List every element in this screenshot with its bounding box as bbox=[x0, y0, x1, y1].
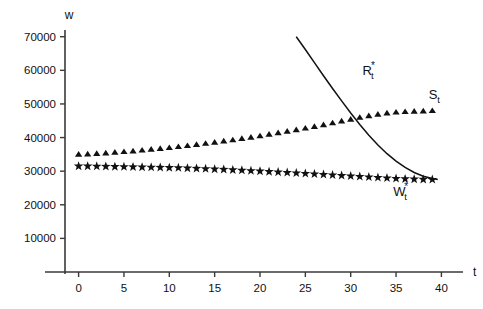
marker-star bbox=[201, 164, 211, 173]
marker-triangle bbox=[429, 107, 436, 113]
marker-triangle bbox=[211, 139, 218, 145]
x-tick-labels: 0510152025303540 bbox=[75, 282, 447, 294]
x-tick-label: 0 bbox=[75, 282, 81, 294]
x-tick-label: 5 bbox=[121, 282, 127, 294]
y-tick-label: 30000 bbox=[24, 165, 56, 177]
marker-triangle bbox=[411, 108, 418, 114]
marker-triangle bbox=[148, 146, 155, 152]
marker-triangle bbox=[311, 123, 318, 129]
marker-triangle bbox=[329, 120, 336, 126]
x-tick-label: 20 bbox=[254, 282, 267, 294]
x-axis-label: t bbox=[473, 265, 477, 279]
marker-star bbox=[174, 163, 184, 172]
marker-triangle bbox=[120, 148, 127, 154]
label-S: St bbox=[429, 87, 441, 105]
marker-triangle bbox=[402, 108, 409, 114]
x-tick-label: 35 bbox=[390, 282, 403, 294]
y-tick-label: 60000 bbox=[24, 64, 56, 76]
curve-line bbox=[296, 37, 437, 180]
marker-star bbox=[228, 165, 238, 174]
marker-triangle bbox=[184, 142, 191, 148]
marker-star bbox=[237, 165, 247, 174]
y-tick-labels: 10000200003000040000500006000070000 bbox=[24, 31, 56, 245]
label-R: R*t bbox=[362, 60, 375, 81]
axis-ticks bbox=[60, 37, 441, 277]
marker-triangle bbox=[338, 118, 345, 124]
y-tick-label: 20000 bbox=[24, 199, 56, 211]
y-tick-label: 70000 bbox=[24, 31, 56, 43]
marker-star bbox=[246, 166, 256, 175]
marker-star bbox=[183, 163, 193, 172]
marker-triangle bbox=[302, 125, 309, 131]
series-Rt bbox=[296, 37, 437, 180]
marker-triangle bbox=[275, 130, 282, 136]
marker-star bbox=[282, 168, 292, 177]
marker-triangle bbox=[238, 135, 245, 141]
chart-container: 0510152025303540 10000200003000040000500… bbox=[0, 0, 483, 309]
marker-star bbox=[337, 171, 347, 180]
marker-triangle bbox=[138, 147, 145, 153]
marker-star bbox=[192, 163, 202, 172]
marker-triangle bbox=[157, 145, 164, 151]
marker-star bbox=[409, 174, 419, 183]
marker-star bbox=[255, 166, 265, 175]
marker-star bbox=[101, 161, 111, 170]
marker-triangle bbox=[293, 127, 300, 133]
marker-star bbox=[310, 169, 320, 178]
scatter-plot: 0510152025303540 10000200003000040000500… bbox=[0, 0, 483, 309]
marker-triangle bbox=[129, 148, 136, 154]
label-W: W*t bbox=[393, 181, 408, 202]
marker-triangle bbox=[175, 143, 182, 149]
marker-star bbox=[355, 172, 365, 181]
series-Wt bbox=[74, 161, 437, 183]
series-annotations: StW*tR*t bbox=[362, 60, 440, 202]
marker-triangle bbox=[229, 137, 236, 143]
marker-star bbox=[292, 168, 302, 177]
y-axis-label: w bbox=[64, 8, 74, 22]
x-tick-label: 10 bbox=[163, 282, 176, 294]
marker-triangle bbox=[247, 134, 254, 140]
marker-triangle bbox=[111, 149, 118, 155]
axis-names: wt bbox=[64, 8, 477, 279]
marker-triangle bbox=[356, 114, 363, 120]
marker-triangle bbox=[93, 150, 100, 156]
marker-triangle bbox=[374, 111, 381, 117]
data-series bbox=[74, 37, 438, 184]
marker-star bbox=[92, 161, 102, 170]
marker-star bbox=[382, 173, 392, 182]
marker-star bbox=[364, 172, 374, 181]
x-tick-label: 25 bbox=[299, 282, 312, 294]
marker-triangle bbox=[365, 112, 372, 118]
marker-star bbox=[264, 167, 274, 176]
marker-star bbox=[165, 163, 175, 172]
marker-triangle bbox=[84, 151, 91, 157]
marker-triangle bbox=[392, 109, 399, 115]
marker-triangle bbox=[193, 141, 200, 147]
x-tick-label: 15 bbox=[208, 282, 221, 294]
marker-triangle bbox=[75, 151, 82, 157]
marker-star bbox=[74, 161, 84, 170]
marker-star bbox=[328, 170, 338, 179]
marker-star bbox=[119, 162, 129, 171]
series-label-subscript: t bbox=[371, 70, 374, 81]
marker-star bbox=[83, 161, 93, 170]
marker-star bbox=[391, 174, 401, 183]
y-tick-label: 10000 bbox=[24, 232, 56, 244]
marker-triangle bbox=[102, 150, 109, 156]
marker-triangle bbox=[420, 108, 427, 114]
y-tick-label: 40000 bbox=[24, 132, 56, 144]
marker-star bbox=[155, 162, 165, 171]
marker-star bbox=[210, 164, 220, 173]
series-label-subscript: t bbox=[437, 94, 440, 105]
marker-star bbox=[146, 162, 156, 171]
marker-star bbox=[301, 169, 311, 178]
marker-triangle bbox=[383, 110, 390, 116]
axes bbox=[45, 30, 463, 274]
y-tick-label: 50000 bbox=[24, 98, 56, 110]
marker-triangle bbox=[202, 140, 209, 146]
marker-star bbox=[219, 164, 229, 173]
marker-star bbox=[137, 162, 147, 171]
marker-triangle bbox=[320, 122, 327, 128]
marker-triangle bbox=[256, 133, 263, 139]
series-label-subscript: t bbox=[404, 191, 407, 202]
